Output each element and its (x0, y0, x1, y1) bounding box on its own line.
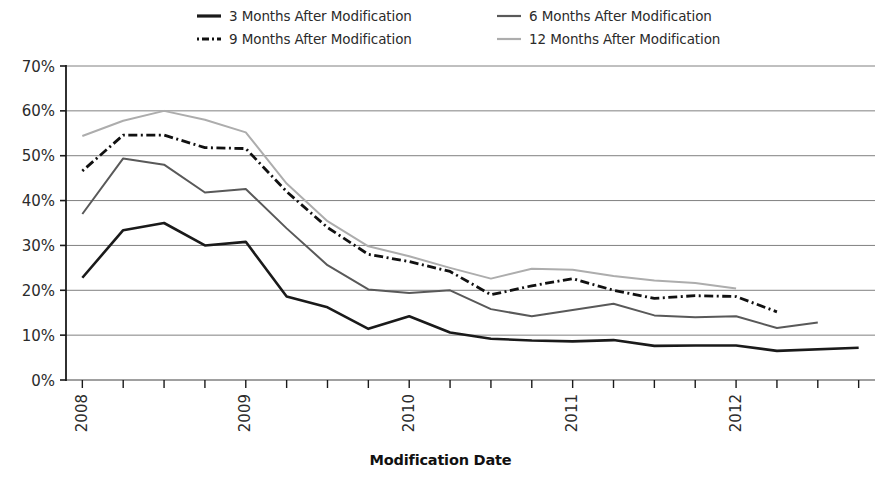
y-axis-tick-label: 50% (22, 147, 55, 165)
x-axis-ticks (82, 380, 858, 388)
x-axis-tick-label: 2011 (563, 394, 581, 432)
y-axis-tick-labels: 0%10%20%30%40%50%60%70% (22, 58, 55, 390)
y-axis-tick-label: 30% (22, 237, 55, 255)
y-axis-tick-label: 10% (22, 327, 55, 345)
series-line (82, 158, 817, 328)
plot-svg: 0%10%20%30%40%50%60%70% 2008200920102011… (0, 0, 881, 486)
x-axis-tick-labels: 20082009201020112012 (73, 394, 745, 432)
series-line (82, 223, 858, 351)
x-axis-tick-label: 2009 (236, 394, 254, 432)
series-line (82, 111, 736, 289)
y-axis-tick-label: 0% (31, 372, 55, 390)
y-axis-tick-label: 60% (22, 102, 55, 120)
y-axis-tick-label: 70% (22, 58, 55, 76)
x-axis-title: Modification Date (0, 452, 881, 468)
x-axis-tick-label: 2012 (727, 394, 745, 432)
plot-area: 0%10%20%30%40%50%60%70% 2008200920102011… (0, 0, 881, 486)
series-line (82, 135, 777, 312)
line-chart: 3 Months After Modification 6 Months Aft… (0, 0, 881, 486)
x-axis-tick-label: 2010 (400, 394, 418, 432)
data-series (82, 111, 858, 351)
gridlines (66, 66, 875, 380)
y-axis-tick-label: 40% (22, 192, 55, 210)
y-axis-tick-label: 20% (22, 282, 55, 300)
x-axis-tick-label: 2008 (73, 394, 91, 432)
